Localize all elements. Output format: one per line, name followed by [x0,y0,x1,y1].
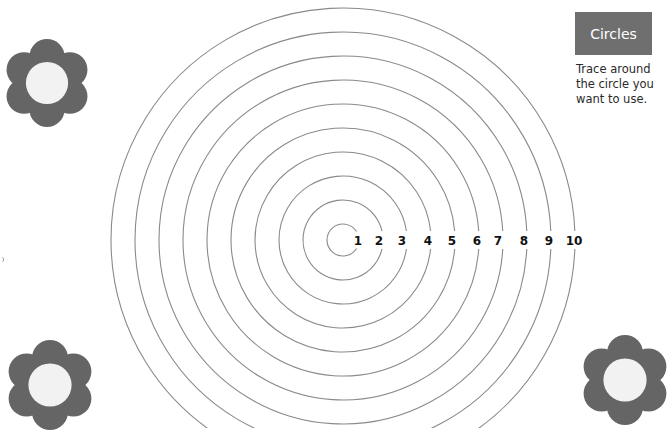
circle-label-7: 7 [494,234,502,248]
flower-bottom-right-icon [580,335,670,429]
circle-label-3: 3 [398,234,406,248]
circle-label-6: 6 [473,234,481,248]
circle-6 [207,104,479,376]
circle-2 [303,200,382,280]
title-badge: Circles [575,12,652,55]
circle-9 [135,32,551,428]
circle-label-1: 1 [354,234,362,248]
circle-label-4: 4 [424,234,432,248]
circle-label-8: 8 [520,234,528,248]
circle-3 [279,176,406,304]
instruction-text: Trace around the circle you want to use. [576,62,656,107]
flower-top-left-icon [3,39,91,131]
circle-8 [159,56,527,424]
circle-1 [327,224,357,256]
circle-label-9: 9 [545,234,553,248]
flower-bottom-left-icon [5,340,95,434]
circle-label-2: 2 [375,234,383,248]
circle-5 [231,128,455,352]
instruction-line-1: Trace around [576,62,656,77]
circle-label-5: 5 [448,234,456,248]
page-title: Circles [590,26,637,42]
circle-10 [111,8,575,428]
circle-label-10: 10 [566,234,583,248]
instruction-line-2: the circle you [576,77,656,92]
instruction-line-3: want to use. [576,92,656,107]
